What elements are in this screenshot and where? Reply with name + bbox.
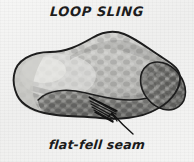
seam-caption: flat-fell seam [0, 137, 194, 152]
illustration-page: LOOP SLING [0, 0, 194, 162]
